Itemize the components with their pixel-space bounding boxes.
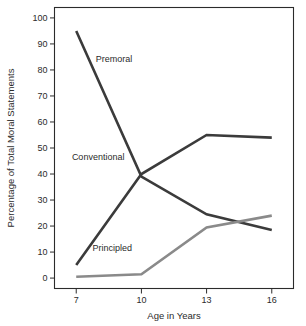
x-axis-tick-group: 7101316 — [74, 289, 277, 306]
y-tick-label: 100 — [32, 13, 47, 23]
series-label-conventional: Conventional — [72, 152, 125, 162]
y-tick-label: 0 — [42, 273, 47, 283]
y-tick-label: 20 — [37, 221, 47, 231]
y-tick-label: 80 — [37, 65, 47, 75]
x-tick-label: 13 — [202, 295, 212, 305]
chart-figure: 0102030405060708090100 7101316 PremoralC… — [0, 0, 306, 326]
y-tick-label: 50 — [37, 143, 47, 153]
x-tick-label: 16 — [267, 295, 277, 305]
y-tick-label: 40 — [37, 169, 47, 179]
y-axis-title: Percentage of Total Moral Statements — [5, 68, 16, 227]
x-axis-title: Age in Years — [147, 310, 201, 321]
y-tick-label: 60 — [37, 117, 47, 127]
series-label-premoral: Premoral — [96, 54, 133, 64]
y-tick-label: 70 — [37, 91, 47, 101]
y-tick-label: 90 — [37, 39, 47, 49]
y-tick-label: 10 — [37, 247, 47, 257]
x-tick-label: 10 — [136, 295, 146, 305]
x-tick-label: 7 — [74, 295, 79, 305]
line-chart: 0102030405060708090100 7101316 PremoralC… — [0, 0, 306, 326]
series-label-principled: Principled — [93, 243, 133, 253]
series-label-group: PremoralConventionalPrincipled — [72, 54, 132, 253]
y-tick-label: 30 — [37, 195, 47, 205]
y-axis-tick-group: 0102030405060708090100 — [32, 13, 54, 283]
